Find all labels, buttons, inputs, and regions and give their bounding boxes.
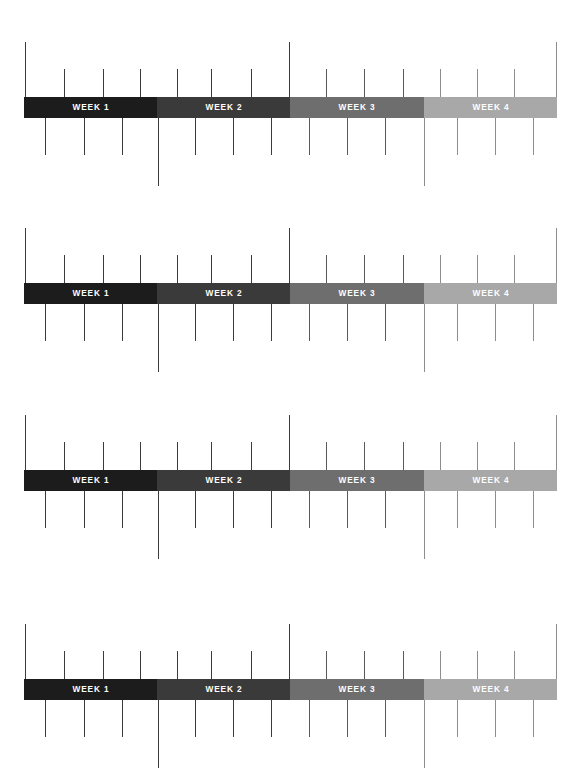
tick-above-milestone bbox=[477, 255, 478, 283]
week-label-week_2: WEEK 2 bbox=[205, 685, 242, 694]
tick-above-week2-week3-boundary bbox=[289, 228, 290, 283]
week-label-week_4: WEEK 4 bbox=[472, 289, 509, 298]
tick-above-milestone bbox=[103, 651, 104, 679]
tick-above-milestone bbox=[140, 255, 141, 283]
tick-above-row-end bbox=[556, 415, 557, 470]
week-segment-week_3-row-2[interactable]: WEEK 3 bbox=[290, 283, 424, 304]
tick-below-milestone bbox=[533, 491, 534, 528]
tick-below-milestone bbox=[271, 304, 272, 341]
week-label-week_3: WEEK 3 bbox=[339, 103, 376, 112]
week-label-week_3: WEEK 3 bbox=[339, 685, 376, 694]
week-segment-week_3-row-3[interactable]: WEEK 3 bbox=[290, 470, 424, 491]
tick-below-milestone bbox=[533, 304, 534, 341]
tick-below-week3-week4-boundary bbox=[424, 304, 425, 372]
week-segment-week_4-row-1[interactable]: WEEK 4 bbox=[424, 97, 557, 118]
tick-below-milestone bbox=[122, 491, 123, 528]
tick-above-milestone bbox=[64, 255, 65, 283]
tick-above-milestone bbox=[103, 69, 104, 97]
tick-below-milestone bbox=[495, 304, 496, 341]
tick-above-milestone bbox=[251, 69, 252, 97]
tick-above-row-start bbox=[25, 228, 26, 283]
week-segment-week_4-row-2[interactable]: WEEK 4 bbox=[424, 283, 557, 304]
tick-above-milestone bbox=[440, 69, 441, 97]
week-label-week_2: WEEK 2 bbox=[205, 289, 242, 298]
tick-below-milestone bbox=[385, 491, 386, 528]
tick-below-week1-week2-boundary bbox=[158, 304, 159, 372]
tick-above-milestone bbox=[251, 651, 252, 679]
timeline-stack: WEEK 1WEEK 2WEEK 3WEEK 4WEEK 1WEEK 2WEEK… bbox=[0, 0, 587, 784]
tick-above-milestone bbox=[514, 255, 515, 283]
tick-below-week3-week4-boundary bbox=[424, 491, 425, 559]
week-segment-week_2-row-4[interactable]: WEEK 2 bbox=[157, 679, 290, 700]
tick-below-milestone bbox=[309, 304, 310, 341]
tick-above-week2-week3-boundary bbox=[289, 624, 290, 679]
tick-above-milestone bbox=[403, 255, 404, 283]
tick-below-milestone bbox=[122, 304, 123, 341]
tick-below-milestone bbox=[495, 700, 496, 737]
tick-above-milestone bbox=[103, 255, 104, 283]
tick-above-milestone bbox=[364, 442, 365, 470]
tick-above-milestone bbox=[440, 651, 441, 679]
tick-above-milestone bbox=[140, 651, 141, 679]
week-segment-week_4-row-3[interactable]: WEEK 4 bbox=[424, 470, 557, 491]
tick-above-milestone bbox=[403, 69, 404, 97]
tick-above-milestone bbox=[514, 69, 515, 97]
tick-above-milestone bbox=[211, 69, 212, 97]
tick-below-milestone bbox=[271, 118, 272, 155]
tick-above-week2-week3-boundary bbox=[289, 42, 290, 97]
tick-below-milestone bbox=[45, 118, 46, 155]
week-segment-week_2-row-2[interactable]: WEEK 2 bbox=[157, 283, 290, 304]
tick-below-milestone bbox=[385, 118, 386, 155]
tick-above-milestone bbox=[177, 442, 178, 470]
week-segment-week_1-row-2[interactable]: WEEK 1 bbox=[24, 283, 157, 304]
tick-below-week1-week2-boundary bbox=[158, 118, 159, 186]
tick-above-milestone bbox=[326, 651, 327, 679]
tick-above-milestone bbox=[477, 69, 478, 97]
tick-below-milestone bbox=[457, 491, 458, 528]
tick-below-milestone bbox=[271, 700, 272, 737]
week-bar-row-3: WEEK 1WEEK 2WEEK 3WEEK 4 bbox=[24, 470, 557, 491]
tick-below-milestone bbox=[233, 700, 234, 737]
tick-below-milestone bbox=[385, 700, 386, 737]
week-segment-week_3-row-1[interactable]: WEEK 3 bbox=[290, 97, 424, 118]
week-label-week_1: WEEK 1 bbox=[72, 476, 109, 485]
tick-below-week1-week2-boundary bbox=[158, 491, 159, 559]
tick-below-milestone bbox=[195, 491, 196, 528]
tick-below-milestone bbox=[347, 491, 348, 528]
tick-above-milestone bbox=[364, 255, 365, 283]
week-label-week_1: WEEK 1 bbox=[72, 685, 109, 694]
week-bar-row-2: WEEK 1WEEK 2WEEK 3WEEK 4 bbox=[24, 283, 557, 304]
tick-above-milestone bbox=[251, 255, 252, 283]
week-segment-week_1-row-4[interactable]: WEEK 1 bbox=[24, 679, 157, 700]
tick-above-week2-week3-boundary bbox=[289, 415, 290, 470]
tick-above-row-start bbox=[25, 624, 26, 679]
tick-below-milestone bbox=[84, 118, 85, 155]
week-segment-week_2-row-1[interactable]: WEEK 2 bbox=[157, 97, 290, 118]
tick-above-milestone bbox=[326, 69, 327, 97]
tick-below-milestone bbox=[122, 118, 123, 155]
week-segment-week_4-row-4[interactable]: WEEK 4 bbox=[424, 679, 557, 700]
tick-above-milestone bbox=[514, 442, 515, 470]
tick-below-milestone bbox=[45, 700, 46, 737]
tick-below-milestone bbox=[347, 118, 348, 155]
tick-below-week3-week4-boundary bbox=[424, 700, 425, 768]
tick-above-milestone bbox=[364, 69, 365, 97]
tick-above-milestone bbox=[326, 442, 327, 470]
tick-above-milestone bbox=[251, 442, 252, 470]
tick-below-milestone bbox=[195, 118, 196, 155]
tick-above-row-end bbox=[556, 624, 557, 679]
tick-above-milestone bbox=[514, 651, 515, 679]
week-label-week_1: WEEK 1 bbox=[72, 103, 109, 112]
tick-above-row-start bbox=[25, 415, 26, 470]
tick-above-milestone bbox=[140, 69, 141, 97]
week-segment-week_3-row-4[interactable]: WEEK 3 bbox=[290, 679, 424, 700]
tick-below-week3-week4-boundary bbox=[424, 118, 425, 186]
week-segment-week_1-row-1[interactable]: WEEK 1 bbox=[24, 97, 157, 118]
week-segment-week_1-row-3[interactable]: WEEK 1 bbox=[24, 470, 157, 491]
week-label-week_2: WEEK 2 bbox=[205, 476, 242, 485]
week-label-week_3: WEEK 3 bbox=[339, 289, 376, 298]
week-segment-week_2-row-3[interactable]: WEEK 2 bbox=[157, 470, 290, 491]
tick-below-milestone bbox=[309, 118, 310, 155]
week-label-week_1: WEEK 1 bbox=[72, 289, 109, 298]
tick-below-milestone bbox=[45, 304, 46, 341]
